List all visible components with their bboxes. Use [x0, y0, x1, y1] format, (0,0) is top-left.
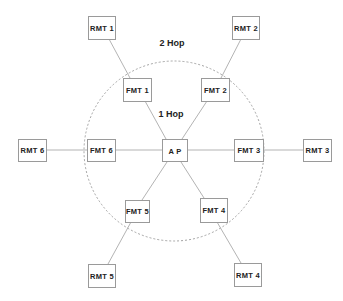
node-rmt1: RMT 1 — [89, 17, 116, 40]
node-rmt4: RMT 4 — [235, 264, 262, 287]
one-hop-label: 1 Hop — [158, 109, 184, 119]
node-label-fmt2: FMT 2 — [204, 86, 227, 95]
node-label-rmt4: RMT 4 — [236, 271, 261, 280]
link-ap-fmt1 — [145, 101, 166, 139]
node-fmt2: FMT 2 — [202, 79, 230, 102]
node-label-fmt6: FMT 6 — [90, 146, 113, 155]
link-ap-fmt4 — [181, 162, 204, 198]
link-fmt1-rmt1 — [109, 39, 130, 78]
node-rmt6: RMT 6 — [19, 140, 47, 162]
node-label-rmt2: RMT 2 — [234, 24, 258, 33]
link-ap-fmt5 — [142, 162, 167, 200]
node-fmt1: FMT 1 — [124, 79, 152, 102]
node-rmt2: RMT 2 — [233, 17, 260, 40]
node-ap: A P — [163, 140, 188, 162]
node-label-fmt5: FMT 5 — [126, 207, 149, 216]
link-fmt5-rmt5 — [108, 222, 131, 264]
node-label-ap: A P — [168, 147, 181, 156]
node-fmt6: FMT 6 — [88, 140, 116, 162]
link-fmt2-rmt2 — [221, 39, 241, 78]
two-hop-label: 2 Hop — [159, 38, 185, 48]
link-ap-fmt2 — [182, 101, 207, 139]
node-label-rmt5: RMT 5 — [90, 272, 114, 281]
node-label-fmt4: FMT 4 — [202, 206, 226, 215]
node-label-rmt6: RMT 6 — [21, 146, 45, 155]
node-rmt5: RMT 5 — [89, 265, 116, 288]
node-label-rmt3: RMT 3 — [306, 146, 330, 155]
node-fmt3: FMT 3 — [235, 140, 264, 162]
network-diagram: 2 Hop 1 Hop A P FMT 1 FMT 2 FMT 3 FMT 4 … — [0, 0, 343, 301]
node-fmt5: FMT 5 — [126, 201, 150, 223]
node-label-fmt3: FMT 3 — [237, 146, 260, 155]
node-fmt4: FMT 4 — [201, 199, 228, 223]
node-rmt3: RMT 3 — [304, 140, 332, 162]
node-label-rmt1: RMT 1 — [90, 24, 114, 33]
link-fmt4-rmt4 — [217, 222, 241, 263]
node-label-fmt1: FMT 1 — [126, 86, 149, 95]
